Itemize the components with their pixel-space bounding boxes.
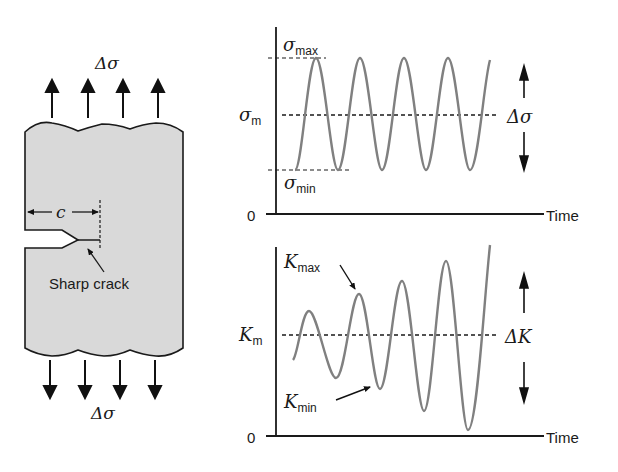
k-max-label: Kmax [283, 251, 320, 275]
sigma-min-label: σmin [284, 172, 316, 196]
specimen-plate [25, 122, 183, 356]
k-min-label: Kmin [283, 391, 317, 415]
stress-range-label: Δσ [506, 106, 533, 127]
sigma-mean-label: σm [239, 104, 261, 128]
stress-x-label: Time [546, 207, 579, 224]
fatigue-diagram: c Sharp crack Δσ Δσ 0 Time σmax [0, 0, 618, 472]
k-x-label: Time [546, 429, 579, 446]
k-mean-label: Km [238, 324, 262, 348]
stress-curve [295, 58, 490, 170]
k-max-pointer-arrow [340, 265, 355, 289]
top-load-label: Δσ [94, 53, 119, 73]
stress-origin-label: 0 [247, 207, 255, 224]
k-chart: 0 Time Kmax Km Kmin ΔK [238, 245, 579, 446]
bottom-load-arrows [44, 360, 161, 398]
crack-length-label: c [56, 202, 66, 222]
specimen: c Sharp crack Δσ Δσ [25, 53, 183, 423]
k-curve [293, 245, 490, 430]
bottom-load-label: Δσ [90, 403, 115, 423]
k-range-label: ΔK [504, 326, 533, 347]
k-origin-label: 0 [247, 429, 255, 446]
k-min-pointer-arrow [336, 387, 370, 400]
crack-label: Sharp crack [49, 275, 130, 292]
stress-chart: 0 Time σmax σm σmin Δσ [239, 27, 579, 224]
top-load-arrows [46, 80, 164, 118]
sigma-max-label: σmax [283, 34, 318, 58]
